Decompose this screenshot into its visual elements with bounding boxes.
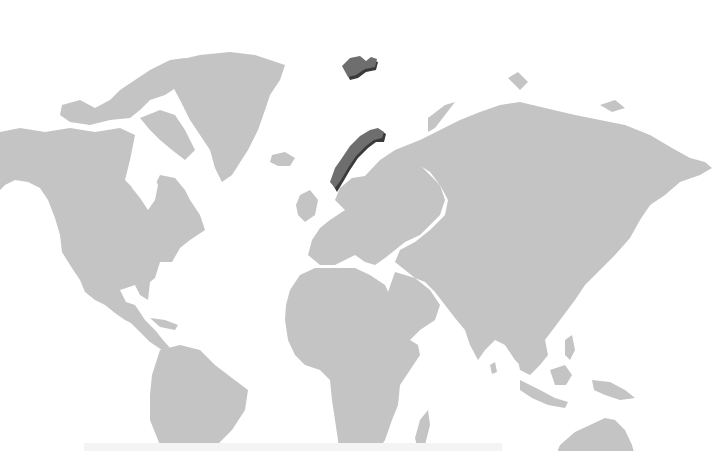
region-south-america[interactable]: [150, 345, 248, 451]
region-australia[interactable]: [552, 418, 636, 451]
land-layer: [0, 52, 712, 451]
region-british-isles[interactable]: [296, 190, 318, 222]
region-new-guinea[interactable]: [592, 380, 635, 400]
region-baffin[interactable]: [140, 110, 195, 160]
region-borneo[interactable]: [550, 365, 572, 385]
region-greenland[interactable]: [170, 52, 285, 182]
region-caribbean[interactable]: [150, 318, 178, 330]
world-map: [0, 0, 712, 451]
bottom-bar: [84, 443, 502, 451]
region-new-siberian-islands[interactable]: [600, 100, 625, 112]
region-sri-lanka[interactable]: [490, 362, 497, 374]
region-iceland[interactable]: [270, 152, 295, 166]
region-arctic-islands[interactable]: [508, 72, 528, 90]
region-philippines[interactable]: [565, 335, 575, 360]
region-asia[interactable]: [395, 102, 712, 370]
region-north-america[interactable]: [0, 128, 205, 325]
